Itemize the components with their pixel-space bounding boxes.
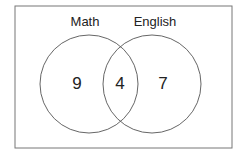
venn-diagram: Math English 9 4 7 xyxy=(0,0,245,152)
math-label: Math xyxy=(71,14,100,29)
english-label: English xyxy=(134,14,177,29)
intersection-count: 4 xyxy=(115,74,124,93)
math-only-count: 9 xyxy=(72,74,81,93)
english-only-count: 7 xyxy=(158,74,167,93)
